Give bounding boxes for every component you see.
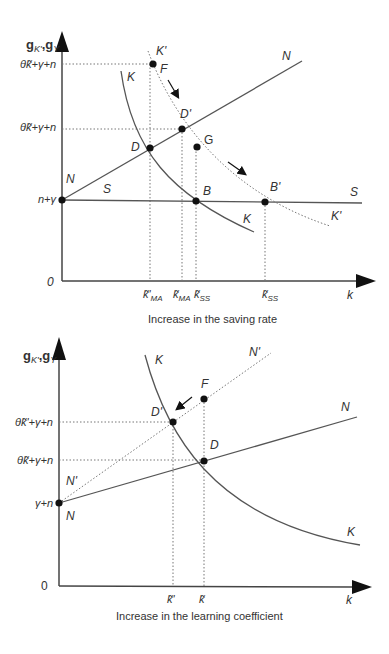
y-axis-label-bottom: gK',gY <box>23 348 57 365</box>
label-K-top: K <box>127 70 136 84</box>
label-Kprime-top: K' <box>156 44 167 58</box>
label-K-bottom: K <box>243 212 252 226</box>
x-tick-k-prime: k̃' <box>167 593 176 605</box>
y-tick-middle: θk̃+γ+n <box>20 121 56 133</box>
origin-label: 0 <box>47 275 54 289</box>
top-caption: Increase in the saving rate <box>148 313 277 325</box>
label-D-bottom: D <box>210 438 219 452</box>
x-axis-label-bottom: k <box>346 593 353 607</box>
x-axis-bottom <box>59 586 354 587</box>
y-tick-lower: n+γ <box>38 193 58 205</box>
Kprime-curve <box>148 51 330 226</box>
label-B: B <box>203 184 211 198</box>
label-Nprime-end-bottom: N' <box>249 345 261 359</box>
label-Dprime: D' <box>180 107 192 121</box>
point-F-bottom <box>200 395 207 402</box>
point-G <box>193 143 200 150</box>
label-N-end-bottom: N <box>341 400 350 414</box>
Nprime-line-bottom <box>59 353 271 503</box>
top-panel: gK',gY 0 k θk̃+γ+n θk̃+γ+n n+γ <box>20 31 376 325</box>
x-axis-bottom-arrow-icon <box>352 580 372 594</box>
y-axis-label: gK',gY <box>26 37 60 54</box>
label-F-bottom: F <box>201 377 209 391</box>
K-curve-bottom <box>145 355 360 545</box>
arrow-F-to-Dprime-icon <box>168 80 178 97</box>
x-axis-label: k <box>347 288 354 302</box>
label-Kprime-bottom: K' <box>331 209 342 223</box>
S-line <box>62 200 362 203</box>
bottom-caption: Increase in the learning coefficient <box>116 610 283 622</box>
point-D-bottom <box>200 457 207 464</box>
point-B <box>192 197 199 204</box>
label-G: G <box>204 133 213 147</box>
y-tick-upper: θk̃+γ+n <box>20 58 56 70</box>
x-tick-k-ma-prime: k̃'MA <box>143 288 163 303</box>
label-K-bottom-bottom: K <box>347 525 356 539</box>
label-Nprime-start-bottom: N' <box>66 474 78 488</box>
point-D <box>146 144 153 151</box>
x-tick-k-ma: k̃MA <box>173 288 191 303</box>
origin-label-bottom: 0 <box>41 579 48 593</box>
point-Dprime-bottom <box>169 418 176 425</box>
label-S-end: S <box>350 185 358 199</box>
point-Dprime <box>178 125 185 132</box>
point-origin-N-bottom <box>55 499 62 506</box>
figure: gK',gY 0 k θk̃+γ+n θk̃+γ+n n+γ <box>0 0 389 654</box>
label-Dprime-bottom: D' <box>151 405 163 419</box>
x-tick-k-ss-new: k̃SS <box>262 288 279 303</box>
point-Bprime <box>261 198 268 205</box>
point-origin-N <box>58 196 65 203</box>
N-line-bottom <box>59 417 357 503</box>
y-tick-lower-bottom: γ+n <box>35 497 53 509</box>
label-F: F <box>160 62 168 76</box>
label-S-start: S <box>103 182 111 196</box>
label-N-start-bottom: N <box>66 509 75 523</box>
arrow-F-to-Dprime-bottom-icon <box>177 397 192 409</box>
label-D: D <box>131 140 140 154</box>
bottom-panel: gK',gY 0 k θk̃'+γ+n θk̃+γ+n γ+n D' F D K… <box>15 337 372 622</box>
point-F <box>149 60 156 67</box>
K-curve <box>121 71 254 232</box>
x-tick-k-ss: k̃SS <box>194 288 211 303</box>
x-tick-k: k̃ <box>199 593 205 605</box>
x-axis-arrow-icon <box>356 274 376 288</box>
label-N-start: N <box>66 172 75 186</box>
label-Bprime: B' <box>270 180 281 194</box>
label-K-top-bottom: K <box>155 353 164 367</box>
y-tick-middle-bottom: θk̃+γ+n <box>17 454 53 466</box>
label-N-end: N <box>282 49 291 63</box>
arrow-Kprime-shift-icon <box>228 162 245 174</box>
y-tick-upper-bottom: θk̃'+γ+n <box>15 416 53 428</box>
